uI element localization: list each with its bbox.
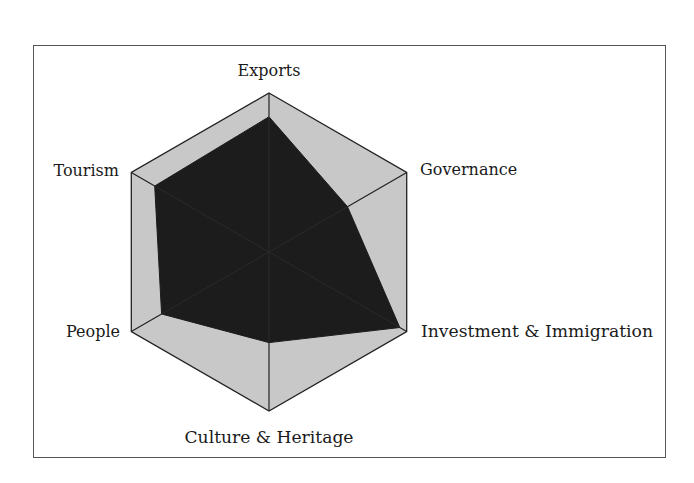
axis-label-tourism: Tourism xyxy=(53,161,119,180)
axis-label-culture: Culture & Heritage xyxy=(185,428,354,447)
radar-chart: Exports Governance Investment & Immigrat… xyxy=(0,0,694,483)
axis-label-people: People xyxy=(66,322,120,341)
axis-label-exports: Exports xyxy=(238,61,301,80)
axis-label-investment: Investment & Immigration xyxy=(421,322,653,341)
axis-label-governance: Governance xyxy=(420,160,517,179)
